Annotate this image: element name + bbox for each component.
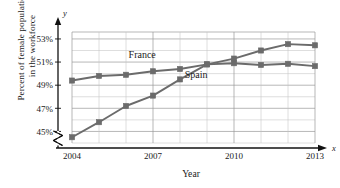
x-tick-2010: 2010 bbox=[225, 151, 244, 161]
gridlines bbox=[72, 32, 315, 143]
x-axis-title: Year bbox=[0, 168, 340, 179]
x-tick-2004: 2004 bbox=[63, 151, 82, 161]
series-label-spain: Spain bbox=[185, 69, 208, 80]
data-point-spain-2012 bbox=[285, 42, 290, 47]
series-line-spain bbox=[72, 44, 315, 137]
y-axis-title-line-2: in the workforce bbox=[27, 15, 38, 77]
data-point-spain-2005 bbox=[96, 120, 101, 125]
line-chart-plot: 45%47%49%51%53% 2004200720102013 FranceS… bbox=[0, 0, 340, 188]
axis-break-symbol bbox=[54, 131, 63, 146]
data-point-france-2005 bbox=[96, 73, 101, 78]
data-point-france-2013 bbox=[312, 64, 317, 69]
data-point-spain-2009 bbox=[204, 62, 209, 67]
y-axis-name: y bbox=[62, 8, 67, 18]
data-point-france-2004 bbox=[69, 78, 74, 83]
x-tick-2013: 2013 bbox=[306, 151, 325, 161]
data-point-france-2012 bbox=[285, 61, 290, 66]
y-axis-title: Percent of female population in the work… bbox=[7, 0, 47, 121]
data-point-france-2008 bbox=[177, 66, 182, 71]
data-point-spain-2004 bbox=[69, 135, 74, 140]
x-tick-2007: 2007 bbox=[144, 151, 163, 161]
data-point-spain-2010 bbox=[231, 56, 236, 61]
chart-container: Percent of female population in the work… bbox=[0, 0, 340, 188]
data-point-france-2011 bbox=[258, 62, 263, 67]
data-point-spain-2006 bbox=[123, 103, 128, 108]
y-axis-title-line-1: Percent of female population bbox=[16, 0, 27, 101]
x-tick-labels: 2004200720102013 bbox=[63, 151, 325, 161]
series-layer bbox=[69, 42, 317, 140]
data-point-spain-2007 bbox=[150, 93, 155, 98]
data-point-spain-2008 bbox=[177, 77, 182, 82]
data-point-france-2006 bbox=[123, 72, 128, 77]
data-point-spain-2013 bbox=[312, 43, 317, 48]
data-point-spain-2011 bbox=[258, 48, 263, 53]
series-annotations: FranceSpain bbox=[129, 49, 208, 80]
data-point-france-2007 bbox=[150, 69, 155, 74]
axes bbox=[55, 17, 327, 151]
x-axis-title-text: Year bbox=[182, 168, 200, 179]
series-label-france: France bbox=[129, 49, 157, 60]
y-tick-45: 45% bbox=[37, 127, 54, 137]
x-axis-name: x bbox=[331, 143, 336, 153]
